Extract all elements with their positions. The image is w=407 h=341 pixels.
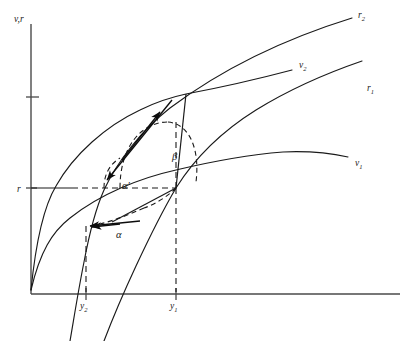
x-tick-label-y2: y2	[79, 301, 88, 313]
curve-label-r2-sub: 2	[362, 15, 366, 22]
curve-label-r1: r1	[367, 83, 374, 95]
curve-label-r1-sub: 1	[371, 88, 374, 95]
curve-label-v1-sub: 1	[359, 163, 362, 170]
labels-group: v,r r y2 y1 r2 v2 r1 v1	[14, 10, 374, 313]
y-axis-label: v,r	[14, 14, 24, 24]
figure-canvas: v,r r y2 y1 r2 v2 r1 v1	[0, 0, 407, 341]
curve-label-v1: v1	[355, 158, 362, 170]
curve-label-v2-sub: 2	[303, 65, 307, 72]
axes-group	[31, 24, 400, 294]
y-tick-label-r: r	[17, 184, 21, 194]
diagram-svg: v,r r y2 y1 r2 v2 r1 v1	[0, 0, 407, 341]
angle-arcs-group	[100, 122, 197, 224]
x-tick-label-y1-sub: 1	[174, 306, 177, 313]
curve-label-v2: v2	[299, 60, 307, 72]
curve-r1	[104, 61, 362, 341]
angle-label-beta: β	[171, 151, 178, 162]
ray-to-upper-point	[176, 94, 186, 188]
x-tick-label-y1: y1	[169, 301, 177, 313]
arrow-to-upper-intersection	[122, 112, 160, 160]
curve-v2	[31, 70, 292, 290]
arrow-alpha-left	[90, 221, 140, 226]
curve-r2	[70, 18, 352, 341]
arrow-to-lower-left	[107, 100, 172, 180]
angle-label-alpha: α	[116, 229, 122, 240]
x-tick-label-y2-sub: 2	[84, 306, 88, 313]
curve-label-r2: r2	[358, 10, 366, 22]
angle-label-alpha-prime: α′	[122, 180, 131, 191]
guides-group	[31, 118, 176, 292]
curve-v1	[31, 152, 348, 290]
